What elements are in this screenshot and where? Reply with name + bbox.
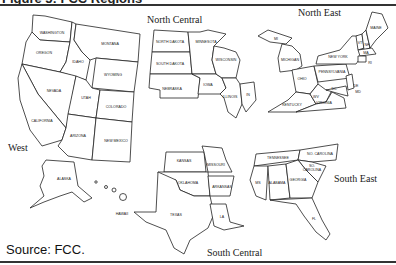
state-connecticut <box>358 56 366 62</box>
svg-text:OREGON: OREGON <box>36 51 52 55</box>
region-label-south-central: South Central <box>207 247 262 258</box>
svg-text:NORTH DAKOTA: NORTH DAKOTA <box>156 40 185 44</box>
svg-text:ALABAMA: ALABAMA <box>269 181 287 185</box>
svg-text:ARKANSAS: ARKANSAS <box>212 185 232 189</box>
svg-text:MONTANA: MONTANA <box>101 42 119 46</box>
region-label-north-central: North Central <box>147 14 202 25</box>
svg-text:MA: MA <box>363 51 369 55</box>
region-label-north-east: North East <box>298 7 341 18</box>
state-wisconsin <box>212 46 240 78</box>
svg-text:WISCONSIN: WISCONSIN <box>216 58 237 62</box>
west-states: WASHINGTON OREGON IDAHO MONTANA WYOMING … <box>18 15 140 216</box>
svg-text:TEXAS: TEXAS <box>170 213 182 217</box>
svg-text:PENNSYLVANIA: PENNSYLVANIA <box>318 70 346 74</box>
north-east-states: MI MICHIGAN OHIO KENTUCKY WV VIRGINIA PE… <box>258 12 388 112</box>
svg-text:MISSOURI: MISSOURI <box>207 163 225 167</box>
region-label-south-east: South East <box>334 173 377 184</box>
svg-text:MINNESOTA: MINNESOTA <box>195 40 217 44</box>
svg-text:NEW YORK: NEW YORK <box>328 55 348 59</box>
north-central-states: NORTH DAKOTA MINNESOTA SOUTH DAKOTA WISC… <box>149 30 256 118</box>
svg-text:FL: FL <box>312 217 316 221</box>
svg-text:IN: IN <box>246 93 250 97</box>
south-central-states: KANSAS MISSOURI OKLAHOMA ARKANSAS TEXAS … <box>134 146 244 254</box>
svg-text:OHIO: OHIO <box>297 77 306 81</box>
svg-text:COLORADO: COLORADO <box>106 105 127 109</box>
svg-text:NEBRASKA: NEBRASKA <box>162 87 182 91</box>
svg-text:MICHIGAN: MICHIGAN <box>281 58 299 62</box>
svg-text:ILLINOIS: ILLINOIS <box>223 95 238 99</box>
svg-text:RI: RI <box>368 61 372 65</box>
region-label-west: West <box>8 142 28 153</box>
svg-text:NEVADA: NEVADA <box>47 89 62 93</box>
svg-text:CAROLINA: CAROLINA <box>303 168 322 172</box>
svg-text:NH: NH <box>364 43 370 47</box>
svg-text:VT: VT <box>358 41 363 45</box>
svg-text:NEW MEXICO: NEW MEXICO <box>104 139 128 143</box>
svg-text:ARIZONA: ARIZONA <box>70 134 87 138</box>
svg-text:ALASKA: ALASKA <box>57 177 72 181</box>
state-missouri <box>202 146 232 172</box>
state-nebraska <box>149 74 200 98</box>
state-alaska <box>30 160 92 208</box>
svg-text:VIRGINIA: VIRGINIA <box>316 101 332 105</box>
us-map: WASHINGTON OREGON IDAHO MONTANA WYOMING … <box>0 0 396 265</box>
svg-text:DC: DC <box>331 87 337 91</box>
svg-text:DE: DE <box>354 84 360 88</box>
state-louisiana <box>210 204 244 230</box>
svg-text:LA: LA <box>220 215 225 219</box>
svg-text:UTAH: UTAH <box>81 96 91 100</box>
svg-text:NO. CAROLINA: NO. CAROLINA <box>307 152 333 156</box>
svg-text:WV: WV <box>313 95 319 99</box>
svg-text:KANSAS: KANSAS <box>177 159 192 163</box>
south-east-states: TENNESSEE NO. CAROLINA SO. CAROLINA MS A… <box>250 144 338 240</box>
svg-text:IDAHO: IDAHO <box>72 60 84 64</box>
bottom-rule <box>0 261 396 263</box>
svg-text:WYOMING: WYOMING <box>104 73 122 77</box>
svg-text:HAWAII: HAWAII <box>116 212 129 216</box>
svg-text:GEORGIA: GEORGIA <box>290 178 307 182</box>
fcc-regions-map: Figure 5: FCC Regions WASHINGTON OREG <box>0 0 396 265</box>
state-indiana <box>240 82 256 112</box>
state-florida <box>270 198 330 240</box>
svg-text:OKLAHOMA: OKLAHOMA <box>178 181 199 185</box>
svg-text:MI: MI <box>274 37 278 41</box>
svg-text:MAINE: MAINE <box>370 26 382 30</box>
svg-text:MD: MD <box>355 90 361 94</box>
svg-text:IOWA: IOWA <box>203 83 213 87</box>
state-hawaii <box>95 181 127 201</box>
state-new-york <box>316 36 362 64</box>
svg-text:MS: MS <box>255 181 261 185</box>
source-note: Source: FCC. <box>6 242 85 257</box>
svg-text:CALIFORNIA: CALIFORNIA <box>31 119 53 123</box>
svg-text:KENTUCKY: KENTUCKY <box>282 103 302 107</box>
svg-text:WASHINGTON: WASHINGTON <box>40 31 65 35</box>
svg-text:TENNESSEE: TENNESSEE <box>267 156 289 160</box>
svg-text:SOUTH DAKOTA: SOUTH DAKOTA <box>156 62 185 66</box>
